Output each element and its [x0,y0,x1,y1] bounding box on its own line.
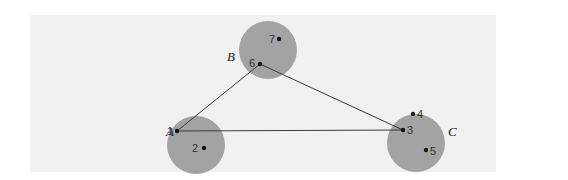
node-4-label: 4 [417,108,423,120]
cluster-b-circle [239,21,297,79]
node-2-label: 2 [192,142,198,154]
cluster-c-label: C [448,124,457,139]
edge-1-6 [177,64,260,131]
node-6-label: 6 [249,57,255,69]
node-7-dot [277,37,281,41]
node-1-dot [175,129,179,133]
clusters-layer [167,21,445,174]
node-4-dot [411,112,415,116]
cluster-c-circle [387,114,445,172]
node-7-label: 7 [269,33,275,45]
node-1-label: 1 [167,125,173,137]
cluster-graph-diagram: ABC1234567 [0,0,568,180]
node-2-dot [202,146,206,150]
node-3-dot [401,128,405,132]
node-5-label: 5 [430,145,436,157]
node-6-dot [258,62,262,66]
cluster-b-label: B [227,49,235,64]
node-5-dot [424,148,428,152]
node-3-label: 3 [407,124,413,136]
edge-6-3 [260,64,403,130]
